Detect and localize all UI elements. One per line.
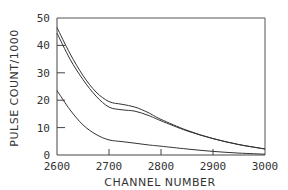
x-axis-ticks: 26002700280029003000 bbox=[44, 149, 279, 173]
y-tick-label: 30 bbox=[37, 67, 50, 80]
y-tick-label: 20 bbox=[37, 94, 50, 107]
y-axis-title: PULSE COUNT/1000 bbox=[8, 29, 21, 146]
y-tick-label: 40 bbox=[37, 39, 50, 52]
y-tick-label: 50 bbox=[37, 12, 50, 25]
series-line-middle bbox=[57, 33, 265, 149]
x-tick-label: 2900 bbox=[200, 160, 227, 173]
x-tick-label: 3000 bbox=[252, 160, 279, 173]
x-tick-label: 2800 bbox=[148, 160, 175, 173]
pulse-count-chart: 01020304050 26002700280029003000 CHANNEL… bbox=[0, 0, 288, 190]
y-tick-label: 10 bbox=[37, 122, 50, 135]
x-axis-title: CHANNEL NUMBER bbox=[104, 176, 215, 189]
x-tick-label: 2600 bbox=[44, 160, 71, 173]
series-line-lower bbox=[57, 91, 265, 155]
x-tick-label: 2700 bbox=[96, 160, 123, 173]
series-line-upper bbox=[57, 28, 265, 149]
data-series bbox=[57, 28, 265, 155]
